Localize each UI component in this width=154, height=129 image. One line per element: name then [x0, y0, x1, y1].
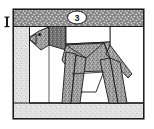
quilt-block-illustration: 3: [0, 0, 154, 129]
patch-chest-wedge: [66, 27, 110, 45]
bottom-border-strip: [14, 103, 144, 119]
block-number-badge: 3: [68, 11, 87, 24]
left-border-strip: [14, 27, 30, 112]
eye-dot: [38, 33, 41, 36]
quilt-block-figure: 3: [0, 0, 154, 129]
badge-number: 3: [74, 13, 79, 23]
